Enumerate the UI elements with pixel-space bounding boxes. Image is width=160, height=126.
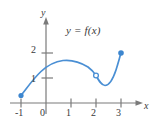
x-axis-label: x	[144, 101, 148, 111]
y-axis-label: y	[41, 8, 45, 18]
function-curve	[21, 53, 121, 96]
x-tick-label-neg1: -1	[15, 108, 23, 118]
y-tick-label-2: 2	[31, 45, 36, 55]
right-endpoint-filled-dot	[118, 50, 124, 56]
x-tick-label-1: 1	[66, 108, 71, 118]
y-axis-ticks	[42, 53, 54, 78]
y-tick-label-1: 1	[31, 74, 36, 84]
x-axis	[10, 100, 143, 106]
x-tick-label-0: 0	[40, 108, 45, 118]
function-graph-figure: y = f(x) -1 0 1 2 3 1 2 x y	[0, 0, 160, 126]
left-endpoint-filled-dot	[18, 93, 23, 98]
x-tick-label-3: 3	[116, 108, 121, 118]
x-tick-label-2: 2	[91, 108, 96, 118]
curve-equation-label: y = f(x)	[66, 24, 101, 36]
graph-canvas	[0, 0, 160, 126]
discontinuity-open-circle	[94, 73, 99, 78]
